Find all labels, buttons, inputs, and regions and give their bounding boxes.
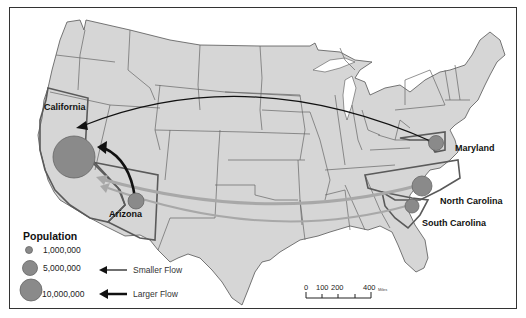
legend-title: Population [23, 230, 77, 242]
scale-bar [306, 292, 371, 298]
larger-flow-arrowhead [99, 289, 108, 299]
scale-unit: Miles [378, 287, 387, 292]
legend-size-1m: 1,000,000 [43, 245, 81, 255]
scale-tick-0: 0 [304, 283, 308, 292]
label-north-carolina: North Carolina [440, 196, 503, 206]
legend-larger-flow: Larger Flow [133, 289, 178, 299]
scale-tick-200: 200 [331, 283, 344, 292]
legend-circle-small [26, 247, 33, 254]
legend-circle-large [20, 279, 42, 301]
scale-tick-400: 400 [363, 283, 376, 292]
label-california: California [44, 102, 86, 112]
california-population-circle [53, 136, 95, 178]
legend-smaller-flow: Smaller Flow [133, 265, 182, 275]
label-maryland: Maryland [455, 143, 495, 153]
maryland-population-circle [429, 136, 444, 151]
sc-population-circle [405, 199, 419, 213]
legend-size-10m: 10,000,000 [42, 289, 85, 299]
scale-tick-100: 100 [316, 283, 329, 292]
label-arizona: Arizona [109, 209, 142, 219]
legend-circle-medium [23, 261, 38, 276]
nc-population-circle [412, 176, 432, 196]
legend-arrows [99, 266, 127, 299]
us-landmass [38, 20, 505, 305]
legend-size-5m: 5,000,000 [43, 263, 81, 273]
smaller-flow-arrowhead [99, 266, 107, 274]
label-south-carolina: South Carolina [422, 218, 486, 228]
legend-symbols [20, 247, 42, 302]
arizona-population-circle [128, 193, 144, 209]
